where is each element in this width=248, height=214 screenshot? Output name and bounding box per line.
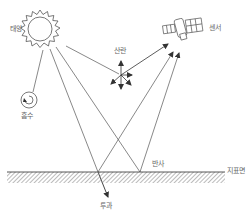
absorption-spiral-icon (21, 92, 37, 108)
reflected-ray-1 (98, 52, 173, 172)
remote-sensing-diagram (0, 0, 248, 214)
incident-ray-scatter (66, 46, 119, 74)
transmission-label: 투과 (100, 203, 112, 210)
scattering-label: 산란 (114, 48, 126, 55)
incident-ray-reflection (56, 47, 140, 172)
satellite-icon (163, 18, 203, 40)
sun-label: 태양 (10, 26, 22, 33)
ground-hatch (7, 172, 225, 183)
absorption-ray (33, 50, 43, 92)
surface-label: 지표면 (227, 168, 245, 175)
sun-icon (21, 10, 61, 48)
incident-ray-transmission (50, 49, 98, 172)
reflected-ray-2 (140, 53, 179, 172)
sensor-label: 센서 (209, 25, 221, 32)
absorption-label: 흡수 (21, 113, 33, 120)
reflection-label: 반사 (152, 161, 164, 168)
